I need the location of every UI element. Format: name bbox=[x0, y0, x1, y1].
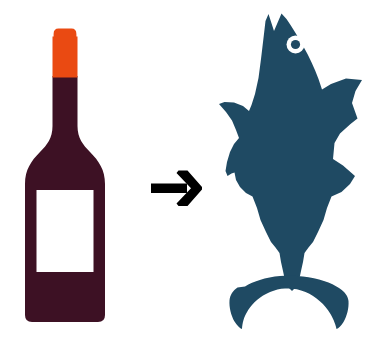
tuna-fish bbox=[219, 14, 362, 330]
fish-eye-pupil bbox=[291, 40, 300, 49]
fish-tail-shape bbox=[229, 276, 348, 329]
wine-bottle bbox=[25, 29, 105, 323]
fish-body-shape bbox=[219, 14, 362, 292]
bottle-capsule-shape bbox=[53, 29, 78, 78]
bottle-label-shape bbox=[37, 190, 94, 272]
arrow-shaft bbox=[151, 184, 187, 194]
illustration-svg bbox=[0, 0, 383, 351]
illustration-canvas: Wine bottle transforms into tuna fish A … bbox=[0, 0, 383, 351]
transformation-arrow bbox=[151, 171, 202, 207]
